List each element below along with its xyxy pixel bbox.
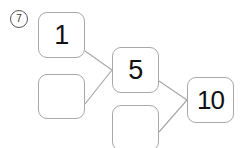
edge-d-to-e	[159, 100, 187, 132]
node-box-e[interactable]: 10	[187, 77, 234, 123]
node-value-c: 5	[128, 57, 143, 84]
edge-a-to-c	[85, 51, 112, 70]
node-box-a[interactable]: 1	[38, 12, 85, 58]
node-value-a: 1	[54, 22, 69, 49]
node-box-b[interactable]	[38, 74, 85, 119]
node-value-e: 10	[197, 87, 224, 113]
node-box-d[interactable]	[112, 105, 159, 148]
edge-c-to-e	[159, 81, 187, 100]
step-number-text: 7	[16, 14, 22, 24]
edge-b-to-c	[85, 70, 112, 104]
number-pyramid-diagram: 7 1 5 10	[0, 0, 245, 148]
node-box-c[interactable]: 5	[112, 47, 159, 93]
step-number-badge: 7	[10, 10, 28, 28]
